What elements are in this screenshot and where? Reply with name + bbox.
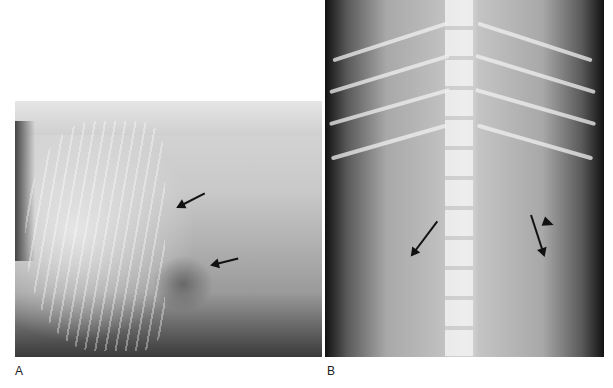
annotation-arrow-icon (178, 192, 206, 207)
radiograph-panel-a (15, 101, 322, 357)
annotation-arrow-icon (411, 221, 438, 256)
annotation-arrowhead-icon (542, 216, 556, 229)
rib (329, 54, 450, 94)
rib (477, 124, 593, 161)
rib (331, 124, 447, 161)
rib (332, 22, 447, 63)
panel-label-b: B (327, 364, 335, 378)
rib (329, 88, 450, 126)
vertebral-column (445, 0, 473, 357)
panel-label-a: A (15, 364, 23, 378)
rib (477, 22, 592, 63)
rib (475, 54, 596, 94)
ribs-region (25, 121, 165, 351)
annotation-arrow-icon (212, 257, 239, 265)
rib (475, 88, 596, 126)
radiograph-panel-b (325, 0, 604, 357)
spine-region (15, 101, 322, 135)
